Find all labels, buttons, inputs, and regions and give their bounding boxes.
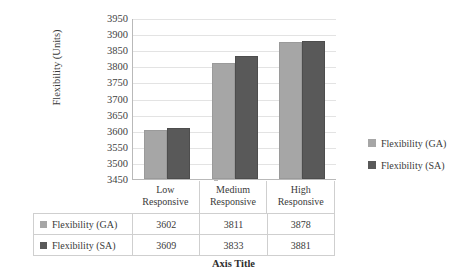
x-axis-title: Axis Title: [132, 258, 335, 269]
legend-label: Flexibility (GA): [381, 138, 446, 149]
table-cell: 3609: [133, 235, 200, 255]
bar-high-responsive-sa: [302, 41, 325, 179]
table-cell: 3811: [200, 214, 267, 234]
table-row-header: Flexibility (SA): [34, 235, 133, 255]
y-tick-label: 3750: [86, 78, 128, 88]
bar-medium-responsive-sa: [235, 56, 258, 179]
y-axis-title: Flexibility (Units): [51, 8, 62, 128]
legend-item-ga: Flexibility (GA): [368, 132, 468, 154]
y-tick-label: 3550: [86, 143, 128, 153]
table-row: Flexibility (GA) 3602 3811 3878: [34, 214, 335, 235]
y-tick-label: 3800: [86, 62, 128, 72]
table-cell: 3878: [268, 214, 335, 234]
table-row-header: Flexibility (GA): [34, 214, 133, 234]
table-cell: 3602: [133, 214, 200, 234]
x-axis-category-labels: Low Responsive Medium Responsive High Re…: [132, 181, 335, 213]
x-category-label-line1: Low: [156, 184, 174, 195]
series-name: Flexibility (GA): [52, 219, 117, 230]
gridline: [133, 35, 336, 36]
series-swatch-ga-icon: [40, 221, 47, 228]
table-cell: 3833: [200, 235, 267, 255]
bar-medium-responsive-ga: [212, 63, 235, 179]
table-row: Flexibility (SA) 3609 3833 3881: [34, 235, 335, 256]
x-category-label-line2: Responsive: [200, 196, 267, 208]
bar-high-responsive-ga: [279, 42, 302, 179]
legend-item-sa: Flexibility (SA): [368, 154, 468, 176]
table-cell: 3881: [268, 235, 335, 255]
plot-area: [132, 19, 335, 180]
y-tick-label: 3950: [86, 14, 128, 24]
y-tick-label: 3450: [86, 175, 128, 185]
y-tick-label: 3600: [86, 127, 128, 137]
y-tick-label: 3500: [86, 159, 128, 169]
y-axis-tick-labels: 3950 3900 3850 3800 3750 3700 3650 3600 …: [86, 19, 128, 180]
data-table: Flexibility (GA) 3602 3811 3878 Flexibil…: [33, 213, 335, 256]
gridline: [133, 19, 336, 20]
x-category-label-line1: High: [291, 184, 311, 195]
series-swatch-sa-icon: [40, 242, 47, 249]
y-tick-label: 3650: [86, 111, 128, 121]
x-category-label: Medium Responsive: [200, 181, 268, 213]
bar-low-responsive-ga: [144, 130, 167, 179]
bar-low-responsive-sa: [167, 128, 190, 179]
legend-swatch-sa-icon: [368, 161, 376, 169]
y-tick-label: 3700: [86, 95, 128, 105]
series-name: Flexibility (SA): [52, 240, 116, 251]
x-category-label-line2: Responsive: [267, 196, 334, 208]
y-tick-label: 3900: [86, 30, 128, 40]
x-category-label-line2: Responsive: [132, 196, 199, 208]
x-category-label-line1: Medium: [216, 184, 250, 195]
y-tick-label: 3850: [86, 46, 128, 56]
legend-swatch-ga-icon: [368, 139, 376, 147]
legend-label: Flexibility (SA): [381, 160, 445, 171]
axis-baseline: [133, 179, 336, 180]
x-category-label: High Responsive: [267, 181, 335, 213]
chart-legend: Flexibility (GA) Flexibility (SA): [368, 132, 468, 176]
x-category-label: Low Responsive: [132, 181, 200, 213]
